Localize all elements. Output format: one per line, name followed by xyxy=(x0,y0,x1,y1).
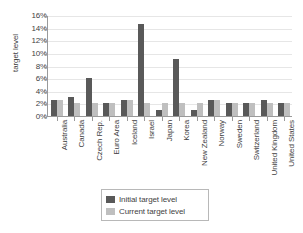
bar-current xyxy=(267,103,273,116)
bar-current xyxy=(92,103,98,116)
bar-group xyxy=(276,16,294,116)
x-axis-category-label: Israel xyxy=(147,120,156,139)
bar-group xyxy=(171,16,189,116)
legend-label-current: Current target level xyxy=(119,207,185,216)
y-axis-tick-label: 0% xyxy=(3,113,47,121)
x-axis-category-label: Australia xyxy=(60,120,69,150)
y-axis-tick-label: 10% xyxy=(3,50,47,58)
x-axis-category-label: United Kingdom xyxy=(270,120,279,176)
x-axis-category-label: Canada xyxy=(77,120,86,147)
chart-legend: Initial target level Current target leve… xyxy=(101,189,209,221)
y-axis-tick-label: 8% xyxy=(3,63,47,71)
y-axis-tick-label: 14% xyxy=(3,25,47,33)
x-axis-category-label: Czech Rep. xyxy=(95,120,104,161)
bar-current xyxy=(249,103,255,116)
y-axis-tick-label: 2% xyxy=(3,100,47,108)
bar-group xyxy=(206,16,224,116)
bar-group xyxy=(223,16,241,116)
x-axis-category-label: Korea xyxy=(182,120,191,141)
bar-group xyxy=(136,16,154,116)
bar-group xyxy=(66,16,84,116)
x-axis-category-label: Switzerland xyxy=(252,120,261,160)
bar-group xyxy=(48,16,66,116)
bar-current xyxy=(109,103,115,116)
legend-label-initial: Initial target level xyxy=(119,195,177,204)
y-axis-tick-label: 6% xyxy=(3,75,47,83)
bars-layer xyxy=(48,16,292,116)
legend-swatch-current-icon xyxy=(106,208,115,215)
plot-area xyxy=(47,16,292,117)
bar-current xyxy=(232,103,238,116)
bar-group xyxy=(258,16,276,116)
bar-chart: target level 16%14%12%10%8%6%4%2%0% Aust… xyxy=(0,0,303,233)
bar-group xyxy=(241,16,259,116)
x-axis-category-label: Sweden xyxy=(235,120,244,148)
bar-current xyxy=(144,103,150,116)
y-axis-tick-label: 4% xyxy=(3,88,47,96)
legend-item-current[interactable]: Current target level xyxy=(106,205,204,217)
x-axis-category-label: United States xyxy=(287,120,296,167)
legend-item-initial[interactable]: Initial target level xyxy=(106,193,204,205)
y-axis-tick-labels: 16%14%12%10%8%6%4%2%0% xyxy=(0,0,47,120)
y-axis-tick-mark xyxy=(44,117,47,118)
bar-group xyxy=(83,16,101,116)
bar-group xyxy=(188,16,206,116)
bar-current xyxy=(179,103,185,116)
bar-current xyxy=(214,100,220,116)
y-axis-tick-label: 12% xyxy=(3,37,47,45)
x-axis-category-labels: AustraliaCanadaCzech Rep.Euro AreaIcelan… xyxy=(47,120,292,182)
bar-current xyxy=(284,103,290,116)
y-axis-tick-label: 16% xyxy=(3,12,47,20)
x-axis-category-label: Norway xyxy=(217,120,226,147)
x-axis-category-label: Iceland xyxy=(130,120,139,145)
bar-current xyxy=(197,103,203,116)
bar-group xyxy=(101,16,119,116)
bar-group xyxy=(153,16,171,116)
bar-current xyxy=(127,100,133,116)
bar-current xyxy=(162,103,168,116)
x-axis-category-label: Japan xyxy=(165,120,174,141)
bar-initial xyxy=(138,24,144,116)
legend-swatch-initial-icon xyxy=(106,196,115,203)
bar-current xyxy=(57,100,63,116)
x-axis-category-label: New Zealand xyxy=(200,120,209,166)
bar-current xyxy=(74,103,80,116)
x-axis-category-label: Euro Area xyxy=(112,120,121,155)
bar-group xyxy=(118,16,136,116)
